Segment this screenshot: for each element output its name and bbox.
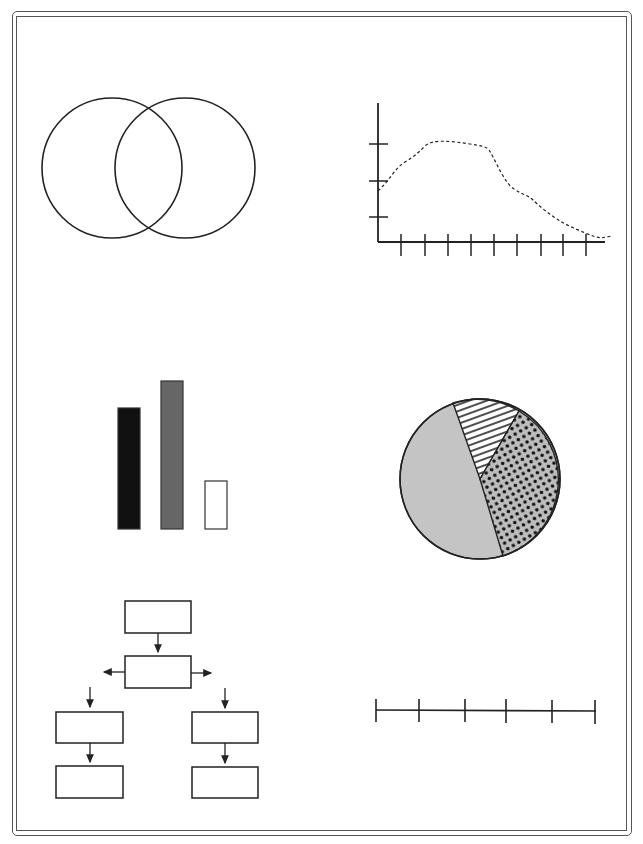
number-line-axis (376, 710, 596, 711)
x-axis-ticks (401, 234, 586, 256)
bar-chart (118, 381, 227, 529)
venn-circle-left (42, 98, 182, 238)
bar-2 (161, 381, 183, 529)
flow-box-top (125, 601, 191, 633)
flow-box-right-1 (192, 712, 258, 743)
flow-box-right-2 (192, 767, 258, 798)
venn-diagram (42, 98, 255, 238)
flow-box-left-2 (56, 766, 123, 798)
flow-box-left-1 (56, 712, 123, 743)
flowchart (56, 601, 258, 798)
number-line (376, 699, 596, 724)
bar-1 (118, 408, 140, 529)
flow-box-middle (125, 656, 191, 688)
worksheet-canvas (0, 0, 643, 844)
line-chart (369, 103, 612, 256)
bar-3 (205, 481, 227, 529)
dashed-data-line (378, 141, 612, 237)
pie-chart (400, 399, 560, 559)
venn-circle-right (115, 98, 255, 238)
